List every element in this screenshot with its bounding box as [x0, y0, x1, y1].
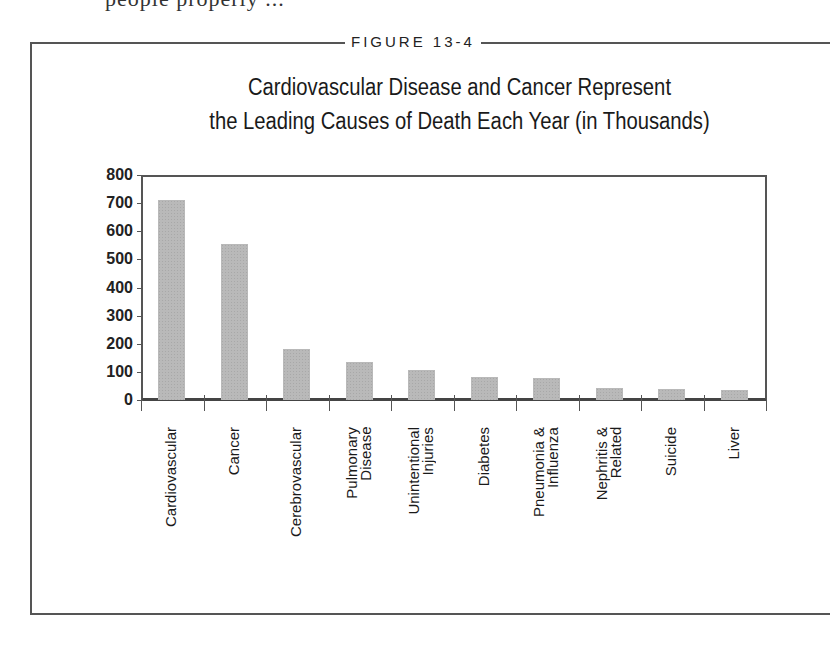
- bar-diabetes: [471, 377, 498, 400]
- x-tick-label: Diabetes: [477, 427, 491, 486]
- bar-liver: [721, 390, 748, 400]
- y-tick-mark: [137, 231, 143, 232]
- bar-cancer: [221, 244, 248, 400]
- y-tick-mark: [137, 203, 143, 204]
- figure-label: FIGURE 13-4: [345, 33, 481, 51]
- y-tick-label: 300: [0, 308, 133, 324]
- x-tick-mark: [704, 395, 705, 411]
- x-tick-mark: [579, 395, 580, 411]
- x-tick-mark: [204, 395, 205, 411]
- x-tick-mark: [141, 395, 142, 411]
- bar-cerebrovascular: [283, 349, 310, 400]
- x-tick-label: Liver: [727, 427, 741, 460]
- y-tick-label: 700: [0, 195, 133, 211]
- bar-pneumonia-influenza: [533, 378, 560, 400]
- cutoff-body-text: people properly ...: [105, 0, 285, 12]
- x-tick-label: Suicide: [664, 427, 678, 476]
- y-tick-label: 200: [0, 336, 133, 352]
- x-tick-mark: [266, 395, 267, 411]
- x-tick-mark: [329, 395, 330, 411]
- y-tick-label: 100: [0, 364, 133, 380]
- y-tick-mark: [137, 259, 143, 260]
- bar-nephritis-related: [596, 388, 623, 400]
- chart-title: Cardiovascular Disease and Cancer Repres…: [143, 70, 776, 138]
- bar-unintentional-injuries: [408, 370, 435, 400]
- y-tick-label: 600: [0, 223, 133, 239]
- y-tick-mark: [137, 175, 143, 176]
- bar-cardiovascular: [158, 200, 185, 400]
- x-tick-label: Unintentional Injuries: [407, 427, 435, 515]
- bar-suicide: [658, 389, 685, 400]
- x-tick-label: Nephritis & Related: [595, 427, 623, 500]
- x-tick-mark: [766, 395, 767, 411]
- y-tick-label: 400: [0, 280, 133, 296]
- y-tick-label: 0: [0, 392, 133, 408]
- y-tick-label: 500: [0, 251, 133, 267]
- x-tick-label: Cancer: [227, 427, 241, 475]
- x-tick-label: Cerebrovascular: [289, 427, 303, 537]
- x-tick-label: Pneumonia & Influenza: [532, 427, 560, 517]
- chart-title-line-2: the Leading Causes of Death Each Year (i…: [143, 104, 776, 138]
- x-tick-label: Cardiovascular: [164, 427, 178, 527]
- y-tick-mark: [137, 344, 143, 345]
- y-tick-mark: [137, 400, 143, 401]
- x-tick-label: Pulmonary Disease: [345, 427, 373, 499]
- y-tick-mark: [137, 372, 143, 373]
- y-tick-mark: [137, 288, 143, 289]
- y-tick-label: 800: [0, 167, 133, 183]
- bar-pulmonary-disease: [346, 362, 373, 400]
- x-tick-mark: [516, 395, 517, 411]
- x-tick-mark: [641, 395, 642, 411]
- y-tick-mark: [137, 316, 143, 317]
- chart-title-line-1: Cardiovascular Disease and Cancer Repres…: [143, 70, 776, 104]
- x-tick-mark: [391, 395, 392, 411]
- x-tick-mark: [454, 395, 455, 411]
